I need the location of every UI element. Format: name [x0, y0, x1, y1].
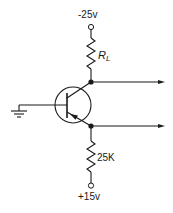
terminal-top — [88, 24, 93, 29]
transistor-collector — [67, 82, 91, 98]
resistor-25k — [87, 141, 95, 172]
arrow-right-icon — [158, 80, 165, 84]
resistor-rl-label: RL — [98, 49, 110, 63]
ground-icon — [11, 111, 27, 117]
transistor-emitter — [67, 112, 91, 126]
supply-top-label: -25v — [78, 9, 97, 20]
emitter-arrow-icon — [70, 114, 78, 120]
resistor-25k-label: 25K — [97, 152, 115, 163]
terminal-bottom — [88, 183, 93, 188]
resistor-rl — [87, 38, 95, 69]
supply-bottom-label: +15v — [78, 191, 100, 202]
circuit-diagram: -25v RL 25K +15v — [0, 0, 173, 213]
arrow-right-icon — [158, 124, 165, 128]
